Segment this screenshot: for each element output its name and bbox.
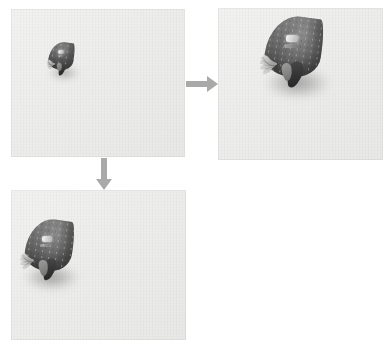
photo-strawberry-original xyxy=(11,9,185,157)
strawberry-highlight-secondary xyxy=(40,244,51,247)
arrow-right xyxy=(186,76,218,92)
arrow-shaft xyxy=(101,158,107,179)
image-panel-zoom-down[interactable] xyxy=(11,190,186,340)
arrow-head-icon xyxy=(207,76,218,92)
photo-strawberry-zoom-right xyxy=(218,8,383,160)
strawberry-subject xyxy=(21,218,78,283)
strawberry-calyx xyxy=(19,252,45,272)
strawberry-subject xyxy=(261,14,329,90)
image-panel-original[interactable] xyxy=(11,9,185,157)
arrow-head-icon xyxy=(96,179,112,190)
strawberry-highlight xyxy=(58,50,63,54)
strawberry-highlight-secondary xyxy=(58,55,64,57)
photo-strawberry-zoom-down xyxy=(11,190,186,340)
strawberry-highlight xyxy=(286,35,298,43)
strawberry-highlight xyxy=(42,236,52,243)
strawberry-subject xyxy=(47,41,78,76)
arrow-shaft xyxy=(186,81,207,87)
strawberry-calyx xyxy=(46,59,60,70)
strawberry-highlight-secondary xyxy=(284,44,298,48)
image-panel-zoom-right[interactable] xyxy=(218,8,383,160)
figure-canvas xyxy=(0,0,387,349)
arrow-down xyxy=(96,158,112,190)
strawberry-calyx xyxy=(258,54,289,77)
